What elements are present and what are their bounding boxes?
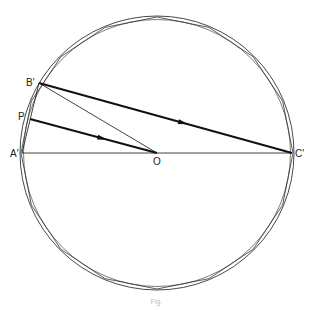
segment-bc	[39, 83, 292, 153]
label-c: C'	[295, 148, 304, 159]
segment-bo	[39, 83, 157, 153]
figure-caption: Fig.	[0, 298, 313, 305]
label-o: O	[153, 156, 161, 167]
label-a: A'	[10, 148, 19, 159]
label-p: P	[18, 111, 25, 122]
segment-po	[30, 119, 157, 153]
circle-diagram: A' B' P O C'	[0, 0, 313, 310]
point-labels: A' B' P O C'	[10, 77, 304, 167]
label-b: B'	[26, 77, 35, 88]
segments	[22, 83, 292, 153]
arrow-icon	[178, 119, 189, 126]
arrows	[97, 119, 189, 142]
